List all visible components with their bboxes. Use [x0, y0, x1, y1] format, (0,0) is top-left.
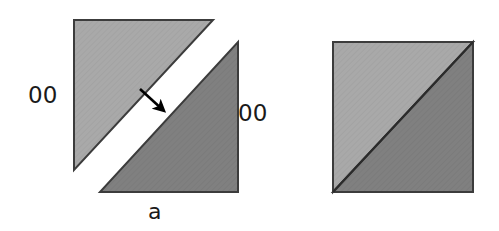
label-00-left: 00 [28, 84, 57, 107]
panel-a-caption: a [148, 201, 161, 223]
figure-root: 00 a 00 b [0, 0, 499, 231]
panel-b: b [290, 0, 499, 231]
label-00-right: 00 [238, 102, 267, 125]
separation-arrow [140, 89, 163, 110]
panel-b-graphic [290, 0, 499, 231]
